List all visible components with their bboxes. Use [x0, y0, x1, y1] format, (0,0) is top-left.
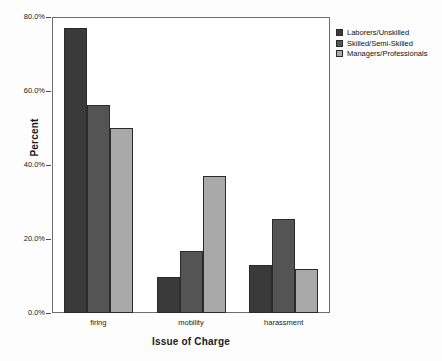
y-tick-mark [46, 91, 51, 92]
legend-item[interactable]: Managers/Professionals [336, 50, 437, 58]
bar-group [249, 17, 318, 313]
y-tick-mark [46, 239, 51, 240]
y-tick-label: 40.0% [5, 161, 45, 169]
legend-label: Skilled/Semi-Skilled [347, 40, 413, 48]
bar [64, 28, 87, 313]
y-tick-label: 0.0% [5, 309, 45, 317]
legend-swatch-icon [336, 40, 343, 47]
bar-chart: Percent 0.0%20.0%40.0%60.0%80.0% firingm… [0, 0, 442, 361]
bar [180, 251, 203, 313]
x-tick-label: firing [58, 318, 138, 327]
bar [272, 219, 295, 313]
bar [249, 265, 272, 313]
legend-swatch-icon [336, 50, 343, 57]
y-tick-mark [46, 313, 51, 314]
bar [203, 176, 226, 313]
bar [110, 128, 133, 313]
x-tick-label: mobility [151, 318, 231, 327]
legend-swatch-icon [336, 29, 343, 36]
x-axis-title: Issue of Charge [52, 336, 330, 347]
x-tick-label: harassment [244, 318, 324, 327]
bar [295, 269, 318, 313]
legend: Laborers/UnskilledSkilled/Semi-SkilledMa… [333, 26, 439, 64]
plot-area [52, 17, 330, 313]
bar [87, 105, 110, 313]
y-tick-label: 80.0% [5, 13, 45, 21]
y-tick-label: 20.0% [5, 235, 45, 243]
legend-item[interactable]: Laborers/Unskilled [336, 29, 437, 37]
bar-group [64, 17, 133, 313]
y-tick-mark [46, 17, 51, 18]
y-axis-ticks: 0.0%20.0%40.0%60.0%80.0% [0, 0, 45, 361]
legend-label: Managers/Professionals [347, 50, 427, 58]
legend-label: Laborers/Unskilled [347, 29, 409, 37]
y-tick-label: 60.0% [5, 87, 45, 95]
legend-item[interactable]: Skilled/Semi-Skilled [336, 40, 437, 48]
y-tick-mark [46, 165, 51, 166]
bar [157, 277, 180, 313]
bar-group [157, 17, 226, 313]
